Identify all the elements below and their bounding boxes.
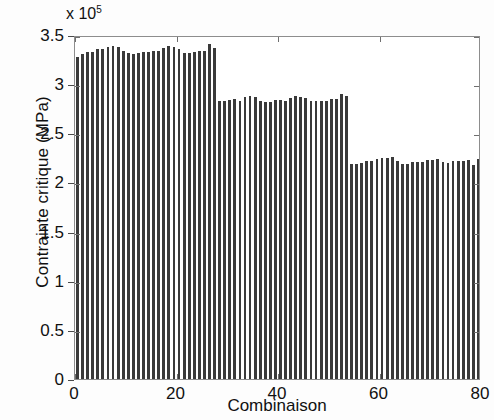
y-tick-mark [68, 233, 74, 234]
y-tick-label: 0.5 [0, 321, 64, 341]
bar [330, 99, 333, 379]
bar [345, 96, 348, 379]
bar [91, 52, 94, 379]
y-tick-mark [68, 36, 74, 37]
bar [279, 100, 282, 379]
y-tick-label: 0 [0, 370, 64, 390]
bar [396, 161, 399, 379]
bar [254, 97, 257, 379]
bar [421, 162, 424, 379]
bar [436, 159, 439, 379]
plot-area [74, 36, 480, 380]
bar [132, 54, 135, 379]
bar [431, 160, 434, 379]
bar [142, 52, 145, 379]
bar [223, 101, 226, 379]
bar [117, 47, 120, 379]
bar [239, 101, 242, 379]
bar [112, 46, 115, 379]
y-tick-inner-right [474, 184, 479, 185]
y-tick-inner [75, 234, 80, 235]
x-tick-inner-bottom [75, 374, 76, 379]
x-tick-inner-bottom [380, 374, 381, 379]
bar [360, 163, 363, 379]
y-tick-inner-right [474, 86, 479, 87]
bar [228, 100, 231, 379]
bar [183, 53, 186, 379]
bar [304, 98, 307, 379]
bar [376, 159, 379, 379]
bar [233, 99, 236, 379]
bar [457, 161, 460, 379]
x-tick-inner-top [177, 37, 178, 42]
bar [426, 160, 429, 379]
bar [208, 44, 211, 379]
y-tick-mark [68, 183, 74, 184]
bar [167, 46, 170, 379]
y-tick-inner-right [474, 135, 479, 136]
y-tick-label: 2.5 [0, 124, 64, 144]
bar [157, 51, 160, 379]
bar [452, 161, 455, 379]
bar [122, 51, 125, 379]
x-tick-inner-bottom [278, 374, 279, 379]
bar [477, 159, 480, 379]
x-tick-inner-bottom [177, 374, 178, 379]
bar [442, 162, 445, 379]
bar [249, 96, 252, 379]
bar [416, 162, 419, 379]
bar [188, 53, 191, 379]
x-axis-title: Combinaison [74, 396, 480, 416]
bar [198, 51, 201, 379]
y-tick-inner [75, 332, 80, 333]
bar [81, 54, 84, 379]
bar [289, 98, 292, 379]
bar [335, 99, 338, 379]
bar [147, 52, 150, 379]
bar [101, 49, 104, 379]
bar [203, 51, 206, 379]
y-tick-inner-right [474, 37, 479, 38]
x-tick-inner-top [380, 37, 381, 42]
y-tick-inner [75, 283, 80, 284]
bar [76, 57, 79, 379]
y-axis-multiplier: x 105 [66, 4, 102, 23]
bar [472, 165, 475, 379]
y-tick-mark [68, 331, 74, 332]
y-tick-mark [68, 134, 74, 135]
bar [411, 162, 414, 379]
bar [350, 164, 353, 379]
bar [370, 161, 373, 379]
bar [340, 94, 343, 379]
bar [365, 161, 368, 379]
bar [259, 101, 262, 379]
y-tick-inner-right [474, 332, 479, 333]
bar [218, 101, 221, 379]
y-tick-mark [68, 85, 74, 86]
bar [264, 102, 267, 379]
y-tick-mark [68, 282, 74, 283]
y-tick-label: 1 [0, 272, 64, 292]
bar [299, 97, 302, 379]
y-tick-inner-right [474, 283, 479, 284]
y-tick-mark [68, 380, 74, 381]
bar [406, 164, 409, 379]
bar [320, 101, 323, 379]
bar [325, 101, 328, 379]
x-tick-inner-top [75, 37, 76, 42]
bar [294, 96, 297, 379]
y-tick-label: 2 [0, 173, 64, 193]
y-tick-inner [75, 86, 80, 87]
bar [269, 102, 272, 379]
bar [315, 101, 318, 379]
y-tick-label: 1.5 [0, 223, 64, 243]
x-tick-inner-top [278, 37, 279, 42]
y-tick-inner-right [474, 234, 479, 235]
y-axis-multiplier-exponent: 5 [96, 4, 102, 15]
bar [178, 49, 181, 379]
bar-series [75, 37, 479, 379]
bar [193, 52, 196, 379]
bar [401, 164, 404, 379]
bar [173, 47, 176, 379]
y-tick-label: 3 [0, 75, 64, 95]
